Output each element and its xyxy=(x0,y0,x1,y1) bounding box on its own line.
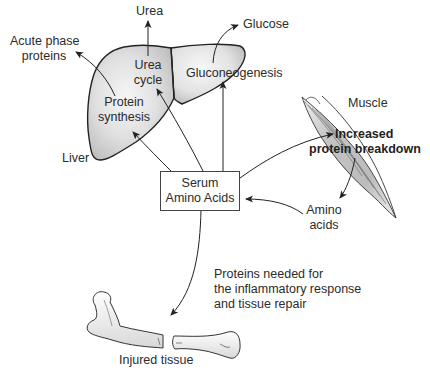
serum-line-1: Serum xyxy=(161,176,239,191)
protein-synthesis-label: Protein synthesis xyxy=(96,95,152,125)
annotation-line-3: and tissue repair xyxy=(214,297,306,311)
protein-synthesis-line-1: Protein xyxy=(104,95,144,109)
arrow-serum-to-injured-tissue xyxy=(171,210,201,315)
increased-protein-breakdown-label: Increased protein breakdown xyxy=(309,127,427,157)
urea-cycle-label: Urea cycle xyxy=(130,58,166,88)
urea-cycle-line-2: cycle xyxy=(134,73,162,87)
acute-phase-line-2: proteins xyxy=(22,49,66,63)
breakdown-line-2: protein breakdown xyxy=(309,142,421,156)
liver-label: Liver xyxy=(62,151,89,166)
acute-phase-proteins-label: Acute phase proteins xyxy=(10,34,78,64)
acute-phase-line-1: Acute phase xyxy=(10,34,80,48)
amino-acids-line-1: Amino xyxy=(306,203,341,217)
arrow-amino-acids-to-serum xyxy=(246,199,303,214)
urea-cycle-line-1: Urea xyxy=(134,58,161,72)
injured-tissue-label: Injured tissue xyxy=(119,353,193,368)
glucose-label: Glucose xyxy=(243,17,289,32)
serum-amino-acids-node: Serum Amino Acids xyxy=(160,171,240,211)
urea-label: Urea xyxy=(136,4,163,19)
annotation-line-1: Proteins needed for xyxy=(214,267,323,281)
arrow-serum-to-protein-synthesis xyxy=(133,132,171,171)
breakdown-line-1: Increased xyxy=(335,127,393,141)
gluconeogenesis-label: Gluconeogenesis xyxy=(186,66,283,81)
amino-acids-label: Amino acids xyxy=(304,203,344,233)
protein-synthesis-line-2: synthesis xyxy=(98,110,150,124)
amino-acids-line-2: acids xyxy=(309,218,338,232)
annotation-line-2: the inflammatory response xyxy=(214,282,361,296)
tissue-repair-annotation: Proteins needed for the inflammatory res… xyxy=(214,267,361,312)
muscle-label: Muscle xyxy=(348,96,388,111)
muscle-organ xyxy=(302,96,396,218)
serum-line-2: Amino Acids xyxy=(161,191,239,206)
bone-left xyxy=(87,292,163,348)
